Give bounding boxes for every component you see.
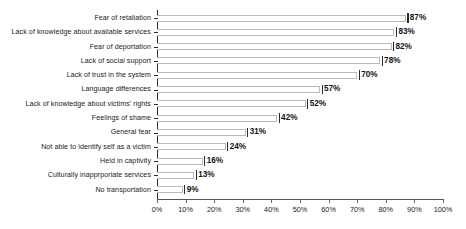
bar	[157, 129, 246, 136]
y-axis-tick	[154, 190, 158, 191]
x-axis-tick-label: 20%	[207, 205, 222, 214]
x-axis-tick-label: 40%	[264, 205, 279, 214]
bar-end-marker	[184, 185, 185, 195]
x-axis-tick	[329, 200, 330, 203]
bar-end-marker	[407, 13, 408, 23]
y-axis-tick	[154, 161, 158, 162]
bar	[157, 172, 194, 179]
category-row: Culturally inapprporiate services	[0, 168, 154, 182]
bar-end-marker	[196, 170, 197, 180]
bar-row: 57%	[157, 82, 443, 96]
category-row: Held in captivity	[0, 154, 154, 168]
plot-area: 87%83%82%78%70%57%52%42%31%24%16%13%9%	[157, 11, 443, 197]
category-label: Fear of retaliation	[94, 11, 151, 25]
bar	[157, 15, 406, 22]
category-label: Culturally inapprporiate services	[48, 168, 151, 182]
bar-end-marker	[227, 142, 228, 152]
bar	[157, 186, 183, 193]
x-axis-tick-label: 100%	[434, 205, 453, 214]
bar-end-marker	[393, 42, 394, 52]
y-axis-tick	[154, 175, 158, 176]
category-label: General fear	[111, 125, 151, 139]
x-axis-tick	[357, 200, 358, 203]
bar-end-marker	[204, 156, 205, 166]
x-axis-tick	[157, 200, 158, 203]
bar-value-label: 52%	[310, 97, 326, 111]
bar-row: 82%	[157, 40, 443, 54]
x-axis-tick-label: 30%	[235, 205, 250, 214]
bar-row: 42%	[157, 111, 443, 125]
category-label: Held in captivity	[100, 154, 151, 168]
category-row: Fear of deportation	[0, 40, 154, 54]
bar-row: 13%	[157, 168, 443, 182]
bar	[157, 29, 394, 36]
bar-row: 52%	[157, 97, 443, 111]
y-axis-tick	[154, 104, 158, 105]
y-axis-tick	[154, 18, 158, 19]
bar	[157, 115, 277, 122]
bar	[157, 158, 203, 165]
x-axis-tick-label: 60%	[321, 205, 336, 214]
bar	[157, 72, 357, 79]
category-row: Fear of retaliation	[0, 11, 154, 25]
bar-end-marker	[307, 99, 308, 109]
y-axis-tick	[154, 61, 158, 62]
bar-row: 78%	[157, 54, 443, 68]
x-axis-tick	[300, 200, 301, 203]
bar-value-label: 87%	[410, 11, 426, 25]
bar-end-marker	[247, 128, 248, 138]
bar	[157, 57, 380, 64]
bar-row: 83%	[157, 25, 443, 39]
bar-end-marker	[396, 27, 397, 37]
x-axis-tick	[414, 200, 415, 203]
bar-end-marker	[382, 56, 383, 66]
category-label: Not able to identify self as a victim	[41, 140, 151, 154]
category-label: Lack of trust in the system	[67, 68, 151, 82]
bar-end-marker	[359, 70, 360, 80]
bar-row: 24%	[157, 140, 443, 154]
category-row: No transportation	[0, 183, 154, 197]
x-axis-tick-label: 90%	[407, 205, 422, 214]
x-axis-tick-label: 50%	[293, 205, 308, 214]
x-axis-tick-label: 10%	[178, 205, 193, 214]
category-row: General fear	[0, 125, 154, 139]
bar-value-label: 9%	[187, 183, 199, 197]
y-axis-tick	[154, 75, 158, 76]
bar-end-marker	[322, 85, 323, 95]
bar-value-label: 78%	[384, 54, 400, 68]
category-label: Lack of knowledge about available servic…	[12, 25, 151, 39]
category-label: Feelings of shame	[92, 111, 151, 125]
category-label: No transportation	[95, 183, 151, 197]
y-axis-tick	[154, 90, 158, 91]
x-axis-tick	[271, 200, 272, 203]
x-axis-tick	[186, 200, 187, 203]
x-axis-tick	[214, 200, 215, 203]
bar-row: 9%	[157, 183, 443, 197]
x-axis-tick-label: 0%	[152, 205, 163, 214]
bar-value-label: 24%	[230, 140, 246, 154]
y-axis-tick	[154, 47, 158, 48]
category-label: Fear of deportation	[90, 40, 151, 54]
x-axis-tick-label: 80%	[378, 205, 393, 214]
category-label: Language differences	[81, 82, 151, 96]
category-row: Not able to identify self as a victim	[0, 140, 154, 154]
x-axis-tick	[386, 200, 387, 203]
x-axis-tick-label: 70%	[350, 205, 365, 214]
bar	[157, 143, 226, 150]
y-axis-tick	[154, 147, 158, 148]
category-row: Feelings of shame	[0, 111, 154, 125]
category-label: Lack of social support	[81, 54, 151, 68]
x-axis-tick	[443, 200, 444, 203]
bar-value-label: 82%	[396, 40, 412, 54]
category-row: Lack of knowledge about available servic…	[0, 25, 154, 39]
bar-row: 31%	[157, 125, 443, 139]
bar-value-label: 83%	[398, 25, 414, 39]
x-axis-tick	[243, 200, 244, 203]
horizontal-bar-chart: Fear of retaliationLack of knowledge abo…	[0, 0, 466, 229]
category-label: Lack of knowledge about victims' rights	[25, 97, 151, 111]
bar	[157, 100, 306, 107]
bar	[157, 86, 320, 93]
y-axis-tick	[154, 32, 158, 33]
bar-end-marker	[279, 113, 280, 123]
bar-value-label: 16%	[207, 154, 223, 168]
